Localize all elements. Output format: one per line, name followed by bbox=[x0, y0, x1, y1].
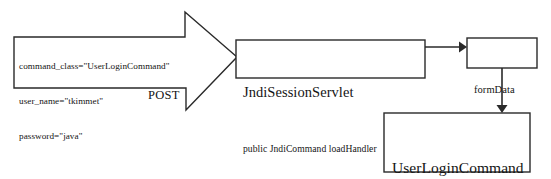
request-parameters: command_class="UserLoginCommand" user_na… bbox=[19, 37, 170, 166]
command-node-label: UserLoginCommand public void processComm… bbox=[392, 117, 524, 179]
command-node-title: UserLoginCommand bbox=[392, 158, 524, 178]
request-param-password: password="java" bbox=[19, 131, 170, 143]
servlet-node-title: JndiSessionServlet bbox=[243, 83, 377, 102]
form-data-node-title: formData bbox=[474, 83, 515, 96]
servlet-to-formdata-connector bbox=[425, 42, 467, 53]
request-param-command-class: command_class="UserLoginCommand" bbox=[19, 61, 170, 73]
servlet-node-subtitle: public JndiCommand loadHandler bbox=[243, 143, 377, 155]
flow-diagram-canvas: command_class="UserLoginCommand" user_na… bbox=[0, 0, 551, 179]
post-method-label: POST bbox=[148, 87, 180, 103]
request-param-user-name: user_name="tkimmet" bbox=[19, 96, 170, 108]
servlet-node-label: JndiSessionServlet public JndiCommand lo… bbox=[243, 42, 377, 179]
